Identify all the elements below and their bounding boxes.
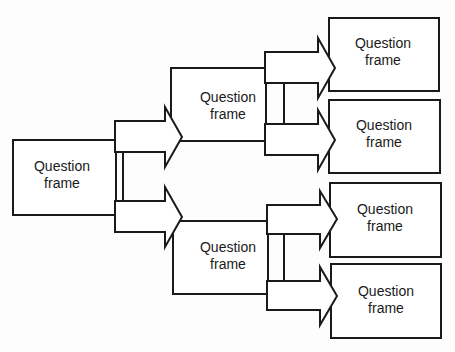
diagram-canvas: Question frame Question frame Question f… [0, 0, 455, 352]
arrow-root-to-mid-bottom [115, 187, 182, 247]
leaf-3-label: Question frame [357, 201, 413, 235]
root-label-line1: Question [34, 158, 90, 175]
mid-top-label-line2: frame [200, 106, 256, 123]
leaf-2-label: Question frame [356, 117, 412, 151]
leaf-4-label-line1: Question [358, 283, 414, 300]
leaf-4-label: Question frame [358, 283, 414, 317]
root-label-line2: frame [34, 175, 90, 192]
leaf-2-label-line2: frame [356, 134, 412, 151]
arrow-mid-top-to-leaf-1 [265, 38, 335, 98]
root-label: Question frame [34, 158, 90, 192]
leaf-3-label-line1: Question [357, 201, 413, 218]
leaf-3-label-line2: frame [357, 218, 413, 235]
arrow-mid-top-to-leaf-2 [265, 110, 335, 170]
leaf-1-label-line1: Question [355, 35, 411, 52]
mid-top-label-line1: Question [200, 89, 256, 106]
mid-bottom-label-line2: frame [200, 256, 256, 273]
mid-bottom-label: Question frame [200, 239, 256, 273]
leaf-2-label-line1: Question [356, 117, 412, 134]
leaf-1-label-line2: frame [355, 52, 411, 69]
leaf-4-label-line2: frame [358, 300, 414, 317]
arrow-mid-bottom-to-leaf-4 [267, 267, 337, 325]
arrow-mid-bottom-to-leaf-3 [267, 191, 337, 248]
leaf-1-label: Question frame [355, 35, 411, 69]
mid-bottom-label-line1: Question [200, 239, 256, 256]
mid-top-label: Question frame [200, 89, 256, 123]
